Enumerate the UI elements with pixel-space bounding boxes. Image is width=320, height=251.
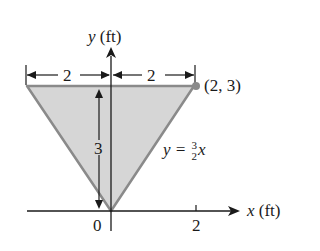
dim-arrow-right-icon: [185, 71, 194, 79]
dim-arrow-mid-left-icon: [101, 71, 110, 79]
x-axis-var: x: [247, 201, 255, 220]
x-axis-unit: (ft): [259, 201, 281, 220]
equation-denominator: 2: [192, 151, 198, 162]
width-label-right: 2: [147, 67, 156, 84]
equation-label: y = 3 2 x: [163, 140, 206, 162]
width-label-left: 2: [63, 67, 72, 84]
dim-arrow-left-icon: [27, 71, 36, 79]
y-axis-unit: (ft): [100, 27, 122, 46]
equation-var: x: [198, 140, 206, 159]
equation-lhs: y =: [163, 140, 186, 159]
x-axis-label: x (ft): [247, 202, 281, 219]
point-label: (2, 3): [204, 77, 241, 94]
equation-fraction: 3 2: [192, 140, 198, 162]
point-marker: [192, 82, 200, 90]
y-axis-label: y (ft): [88, 28, 122, 45]
x-tick-label-2: 2: [192, 217, 201, 234]
height-arrow-down-icon: [95, 200, 103, 209]
x-tick-label-0: 0: [93, 217, 102, 234]
y-axis-var: y: [88, 27, 96, 46]
height-label: 3: [94, 140, 103, 157]
dim-arrow-mid-right-icon: [113, 71, 122, 79]
